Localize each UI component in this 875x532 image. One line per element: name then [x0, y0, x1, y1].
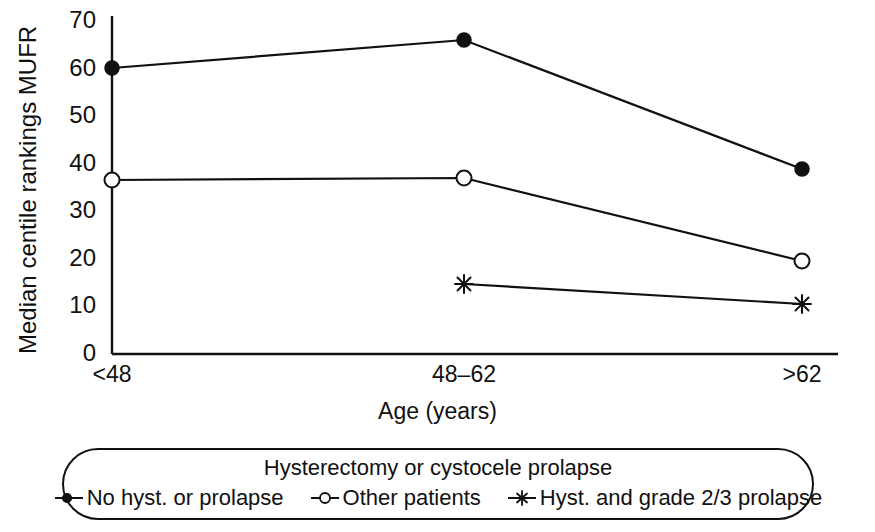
legend-item-hyst-and-grade-2-3-prolapse: Hyst. and grade 2/3 prolapse: [507, 484, 823, 512]
x-axis-title: Age (years): [0, 398, 875, 425]
x-tick-label-under-48: <48: [22, 362, 202, 386]
legend-title: Hysterectomy or cystocele prolapse: [64, 454, 812, 482]
legend-item-other-patients: Other patients: [310, 484, 481, 512]
legend-item-no-hyst-or-prolapse: No hyst. or prolapse: [54, 484, 284, 512]
plot-area: [0, 0, 875, 420]
data-point-star: [793, 295, 811, 313]
data-point-filled-circle: [105, 61, 119, 75]
x-tick-label-over-62: >62: [712, 362, 875, 386]
data-point-open-circle: [795, 254, 810, 269]
chart-figure: Median centile rankings MUFR 70 60 50 40…: [0, 0, 875, 532]
data-point-open-circle: [457, 171, 472, 186]
series-line-hyst-and-grade-2-3-prolapse: [464, 284, 802, 304]
series-line-no-hyst-or-prolapse: [112, 40, 802, 169]
data-point-filled-circle: [457, 33, 471, 47]
series-other-patients: [105, 171, 810, 269]
series-no-hyst-or-prolapse: [105, 33, 809, 176]
data-point-filled-circle: [795, 162, 809, 176]
legend-label: No hyst. or prolapse: [87, 484, 284, 512]
legend-label: Hyst. and grade 2/3 prolapse: [540, 484, 823, 512]
series-line-other-patients: [112, 178, 802, 261]
open-circle-line-icon: [310, 490, 340, 506]
legend-label: Other patients: [343, 484, 481, 512]
star-line-icon: [507, 489, 537, 507]
legend: Hysterectomy or cystocele prolapse No hy…: [62, 448, 814, 520]
x-tick-label-48-62: 48–62: [374, 362, 554, 386]
legend-items: No hyst. or prolapse Other patients: [64, 484, 812, 512]
filled-circle-line-icon: [54, 490, 84, 506]
data-point-open-circle: [105, 173, 120, 188]
series-hyst-and-grade-2-3-prolapse: [455, 275, 811, 313]
data-point-star: [455, 275, 473, 293]
